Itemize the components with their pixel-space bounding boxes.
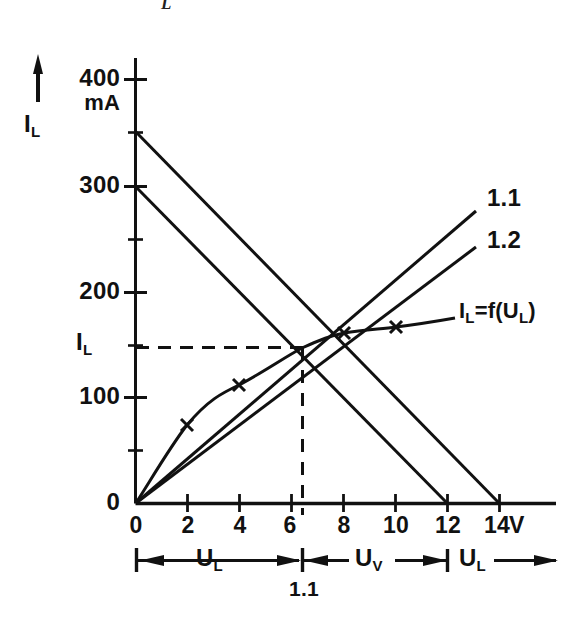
- load-line-b: [136, 187, 447, 503]
- curve-marker-4v: [233, 379, 245, 391]
- x-tick-label-0: 0: [116, 514, 156, 537]
- dim-arrow-to-center-left: [277, 555, 301, 566]
- y-tick-label-300: 300: [62, 173, 120, 197]
- y-tick-label-200: 200: [62, 279, 120, 303]
- x-tick-label-10: 10: [376, 514, 416, 537]
- x-tick-label-12: 12: [428, 514, 468, 537]
- series-line-1-1: [136, 211, 476, 503]
- y-axis-arrowhead: [33, 54, 43, 74]
- y-tick-label-100: 100: [62, 384, 120, 408]
- series-label-1-1: 1.1: [487, 186, 521, 210]
- curve-equation-label: IL=f(UL): [459, 300, 536, 322]
- dim-marker-1-1: 1.1: [282, 578, 326, 599]
- dim-arrow-middle-right: [423, 555, 447, 566]
- load-line-a: [136, 132, 499, 503]
- dim-arrow-right-end: [534, 555, 558, 566]
- y-axis-unit: mA: [62, 92, 120, 114]
- y-tick-label-0: 0: [62, 490, 120, 514]
- figure-root: L: [0, 0, 571, 629]
- x-axis-unit: V: [509, 514, 539, 537]
- series-line-1-2: [136, 247, 476, 503]
- dim-label-left-ul: UL: [196, 546, 223, 570]
- dim-arrow-left: [140, 555, 164, 566]
- x-tick-label-6: 6: [270, 514, 310, 537]
- y-axis-label: IL: [24, 112, 40, 136]
- dim-arrow-from-center-right: [304, 555, 328, 566]
- x-tick-label-2: 2: [168, 514, 208, 537]
- dim-label-uv: UV: [355, 546, 383, 570]
- curve-marker-2v: [181, 419, 193, 431]
- y-tick-label-400: 400: [62, 66, 120, 90]
- dim-label-right-ul: UL: [459, 546, 486, 570]
- series-label-1-2: 1.2: [487, 228, 521, 252]
- operating-point-y-label: IL: [76, 330, 92, 354]
- x-tick-label-8: 8: [324, 514, 364, 537]
- x-tick-label-4: 4: [220, 514, 260, 537]
